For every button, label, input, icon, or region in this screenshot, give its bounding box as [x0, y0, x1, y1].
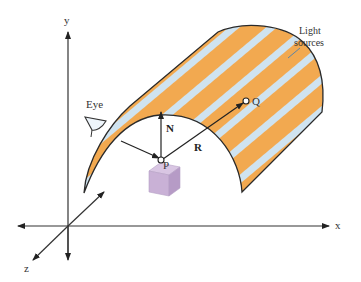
eye-icon [85, 117, 106, 130]
reflection-label: R [194, 141, 203, 153]
light-source-surface [84, 25, 323, 193]
point-q-label: Q [252, 95, 260, 107]
z-axis-neg [68, 192, 104, 226]
x-axis-label: x [335, 219, 341, 231]
light-sources-label-line1: Light [299, 25, 321, 36]
y-axis-label: y [64, 14, 70, 26]
cube-front [149, 171, 169, 196]
eye-label: Eye [86, 98, 103, 110]
eye: Eye [85, 98, 106, 137]
view-vector [121, 141, 159, 158]
z-axis [33, 226, 68, 260]
light-sources-label-line2: sources [294, 37, 324, 48]
striped-surface [84, 25, 323, 193]
eye-lash [91, 130, 92, 137]
point-q-marker [243, 98, 249, 104]
point-p-label: P [163, 159, 169, 171]
z-axis-label: z [24, 262, 29, 274]
reflection-diagram: y x z P Q N R Eye Light sources [0, 0, 361, 282]
normal-label: N [166, 122, 174, 134]
